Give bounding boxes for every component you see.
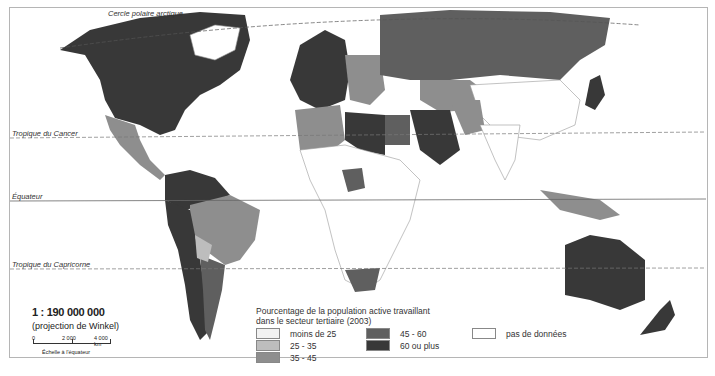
scale-ratio: 1 : 190 000 000 — [32, 306, 119, 318]
legend-swatch — [472, 328, 496, 339]
legend-title-2: dans le secteur tertiaire (2003) — [256, 316, 586, 326]
saudi-arabia — [410, 110, 460, 165]
australia — [565, 235, 645, 310]
south-africa — [345, 268, 380, 292]
scale-block: 1 : 190 000 000 (projection de Winkel) 0… — [32, 306, 119, 355]
europe-west — [290, 30, 350, 110]
legend-swatch — [256, 340, 280, 351]
tropic-cancer-label: Tropique du Cancer — [12, 129, 78, 138]
scale-caption: Échelle à l'équateur — [42, 349, 119, 355]
europe-east — [345, 55, 385, 105]
scale-bar: 0 2 000 4 000 km — [32, 335, 112, 349]
japan — [585, 75, 605, 110]
equator-label: Équateur — [12, 192, 42, 201]
legend-label: 35 - 45 — [290, 353, 316, 363]
legend-label: moins de 25 — [290, 329, 336, 339]
tropic-capricorn-label: Tropique du Capricorne — [12, 260, 90, 269]
scale-tick-mark — [110, 339, 111, 344]
legend-swatch — [366, 328, 390, 339]
legend: Pourcentage de la population active trav… — [256, 306, 586, 366]
legend-item: 60 ou plus — [366, 340, 439, 351]
legend-item: moins de 25 — [256, 328, 336, 339]
scale-tick-2000: 2 000 — [62, 335, 76, 341]
scale-tick-mark — [72, 339, 73, 344]
legend-item: 35 - 45 — [256, 352, 316, 363]
arctic-circle-label: Cercle polaire arctique — [108, 9, 183, 18]
new-zealand — [640, 300, 675, 335]
iran — [450, 100, 485, 135]
legend-swatch — [256, 328, 280, 339]
russia — [380, 10, 610, 80]
scale-tick-mark — [33, 339, 34, 344]
egypt — [385, 115, 410, 145]
legend-item: 25 - 35 — [256, 340, 316, 351]
legend-label: pas de données — [506, 329, 567, 339]
projection-label: (projection de Winkel) — [32, 321, 119, 331]
legend-item: 45 - 60 — [366, 328, 426, 339]
india — [480, 125, 520, 180]
legend-label: 60 ou plus — [400, 341, 439, 351]
legend-swatch — [256, 352, 280, 363]
legend-label: 25 - 35 — [290, 341, 316, 351]
legend-label: 45 - 60 — [400, 329, 426, 339]
indonesia — [540, 190, 620, 220]
legend-item: pas de données — [472, 328, 567, 339]
legend-swatch — [366, 340, 390, 351]
legend-title-1: Pourcentage de la population active trav… — [256, 306, 586, 316]
